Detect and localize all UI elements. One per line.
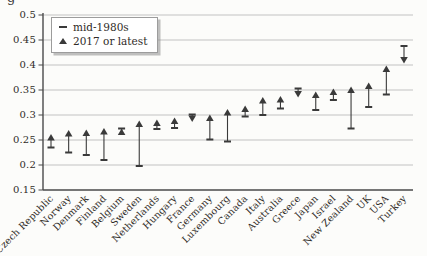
y-tick-label: 0.15	[13, 184, 36, 195]
marker-group-luxembourg	[224, 109, 232, 143]
marker-group-czech-republic	[47, 134, 55, 149]
y-tick-label: 0.5	[19, 9, 36, 20]
dash-marker-mid-1980s	[259, 114, 266, 116]
marker-group-finland	[100, 128, 108, 161]
triangle-marker-icon	[59, 38, 67, 44]
triangle-marker-latest	[241, 105, 249, 112]
dash-marker-mid-1980s	[383, 94, 390, 96]
triangle-marker-latest	[259, 97, 267, 104]
triangle-marker-latest	[400, 57, 408, 64]
triangle-marker-latest	[188, 116, 196, 123]
triangle-marker-latest	[83, 129, 91, 136]
triangle-marker-latest	[153, 119, 161, 126]
triangle-marker-latest	[171, 117, 179, 124]
dash-marker-mid-1980s	[48, 147, 55, 149]
marker-group-hungary	[171, 117, 179, 129]
chart-legend: mid-1980s 2017 or latest	[51, 17, 158, 53]
triangle-marker-latest	[383, 65, 391, 72]
dash-marker-mid-1980s	[295, 88, 302, 90]
triangle-marker-latest	[135, 120, 143, 127]
legend-label-2017-or-latest: 2017 or latest	[73, 35, 147, 47]
y-tick-label: 0.4	[19, 59, 36, 70]
dash-marker-mid-1980s	[277, 108, 284, 110]
marker-group-turkey	[400, 45, 408, 64]
gini-chart-figure: g 0.50.450.40.350.30.250.20.15Czech Repu…	[0, 0, 427, 256]
triangle-marker-latest	[277, 96, 285, 103]
dash-marker-mid-1980s	[100, 159, 107, 161]
marker-group-uk	[365, 82, 373, 108]
legend-label-mid-1980s: mid-1980s	[73, 21, 129, 33]
marker-group-usa	[383, 65, 391, 95]
marker-group-belgium	[118, 128, 126, 136]
dash-marker-mid-1980s	[136, 165, 143, 167]
dash-marker-mid-1980s	[65, 152, 72, 154]
marker-group-japan	[312, 91, 320, 111]
marker-group-france	[188, 114, 196, 123]
marker-group-new-zealand	[347, 86, 355, 129]
y-tick-label: 0.3	[19, 109, 36, 120]
triangle-marker-latest	[65, 130, 73, 137]
marker-group-netherlands	[153, 119, 161, 130]
dash-marker-mid-1980s	[365, 106, 372, 108]
marker-group-germany	[206, 114, 214, 140]
dash-marker-mid-1980s	[348, 128, 355, 130]
legend-item-2017-or-latest: 2017 or latest	[59, 35, 147, 47]
y-tick-label: 0.25	[13, 134, 36, 145]
dash-marker-icon	[59, 26, 67, 28]
triangle-marker-latest	[224, 109, 232, 116]
marker-group-canada	[241, 105, 249, 117]
marker-group-norway	[65, 130, 73, 154]
dash-marker-mid-1980s	[312, 109, 319, 111]
marker-group-sweden	[135, 120, 143, 167]
dash-marker-mid-1980s	[206, 139, 213, 141]
dash-marker-mid-1980s	[224, 141, 231, 143]
triangle-marker-latest	[312, 91, 320, 98]
triangle-marker-latest	[100, 128, 108, 135]
dash-marker-mid-1980s	[330, 99, 337, 101]
dash-marker-mid-1980s	[83, 154, 90, 156]
y-tick-label: 0.45	[13, 34, 36, 45]
marker-group-italy	[259, 97, 267, 116]
dash-marker-mid-1980s	[189, 114, 196, 116]
triangle-marker-latest	[330, 88, 338, 95]
dash-marker-mid-1980s	[242, 116, 249, 118]
triangle-marker-latest	[294, 91, 302, 98]
marker-group-greece	[294, 88, 302, 98]
dash-marker-mid-1980s	[171, 127, 178, 129]
y-tick-label: 0.2	[19, 159, 36, 170]
legend-item-mid-1980s: mid-1980s	[59, 21, 147, 33]
marker-group-australia	[277, 96, 285, 110]
triangle-marker-latest	[365, 82, 373, 89]
dash-marker-mid-1980s	[153, 128, 160, 130]
dash-marker-mid-1980s	[401, 45, 408, 47]
marker-group-denmark	[83, 129, 91, 156]
y-tick-label: 0.35	[13, 84, 36, 95]
triangle-marker-latest	[47, 134, 55, 141]
